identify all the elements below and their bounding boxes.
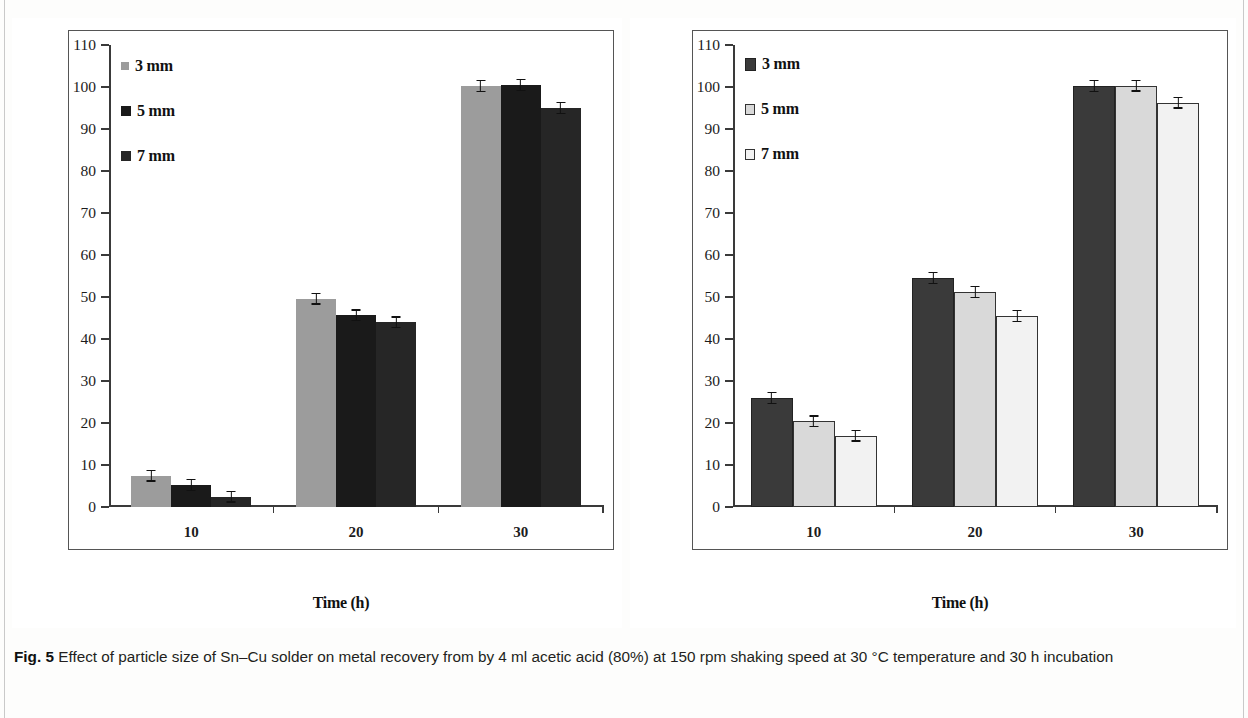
- y-tick: 30: [101, 380, 109, 381]
- bar: [461, 86, 501, 507]
- y-tick-label: 60: [705, 246, 721, 264]
- y-tick-label: 100: [73, 78, 96, 96]
- y-tick: 70: [101, 212, 109, 213]
- error-bar: [971, 286, 980, 298]
- legend-swatch-icon: [745, 149, 755, 160]
- x-axis-title-left: Time (h): [68, 594, 614, 612]
- error-bar: [476, 80, 485, 92]
- error-bar: [809, 415, 818, 427]
- error-bar: [516, 79, 525, 91]
- figure-area: Metal extraction (%) 3 mm5 mm7 mm 010203…: [10, 8, 1238, 636]
- y-tick-label: 10: [81, 456, 97, 474]
- y-tick-label: 10: [705, 456, 721, 474]
- y-axis-line-left: [109, 45, 111, 507]
- bar: [912, 278, 954, 507]
- y-tick: 10: [725, 464, 733, 465]
- legend-label: 5 mm: [761, 100, 799, 118]
- plot-frame-right: 3 mm5 mm7 mm 010203040506070809010011010…: [692, 30, 1228, 550]
- legend-swatch-icon: [745, 58, 756, 71]
- bar: [541, 108, 581, 507]
- error-bar: [1132, 80, 1141, 92]
- legend-swatch-icon: [121, 106, 131, 116]
- y-tick-label: 110: [697, 36, 720, 54]
- y-tick-label: 20: [705, 414, 721, 432]
- bar: [1157, 103, 1199, 507]
- legend-left: 3 mm5 mm7 mm: [121, 57, 175, 192]
- error-bar: [556, 102, 565, 114]
- y-tick-label: 30: [705, 372, 721, 390]
- y-tick-label: 40: [705, 330, 721, 348]
- y-tick-label: 100: [697, 78, 720, 96]
- legend-item: 3 mm: [121, 57, 175, 75]
- error-bar: [1013, 310, 1022, 322]
- x-tick: [273, 505, 274, 513]
- y-tick-label: 80: [81, 162, 97, 180]
- error-bar: [392, 316, 401, 328]
- x-tick: [1216, 505, 1217, 513]
- x-tick: [602, 505, 603, 513]
- bar: [296, 299, 336, 507]
- error-bar: [929, 272, 938, 284]
- y-tick-label: 70: [81, 204, 97, 222]
- y-tick: 100: [725, 86, 733, 87]
- x-tick: [1055, 505, 1056, 513]
- y-tick-label: 70: [705, 204, 721, 222]
- bar: [1115, 86, 1157, 507]
- figure-caption: Fig. 5 Effect of particle size of Sn–Cu …: [14, 645, 1234, 670]
- legend-right: 3 mm5 mm7 mm: [745, 55, 800, 190]
- bar: [211, 497, 251, 508]
- y-tick: 50: [725, 296, 733, 297]
- y-axis-line-right: [733, 45, 735, 507]
- bar: [793, 421, 835, 507]
- legend-item: 5 mm: [745, 100, 800, 118]
- y-tick-label: 0: [712, 498, 720, 516]
- y-tick: 40: [101, 338, 109, 339]
- y-tick-label: 40: [81, 330, 97, 348]
- x-tick-label: 10: [184, 524, 199, 541]
- x-tick-label: 20: [349, 524, 364, 541]
- bar: [954, 292, 996, 507]
- error-bar: [227, 491, 236, 503]
- y-tick: 20: [725, 422, 733, 423]
- error-bar: [147, 470, 156, 482]
- y-tick: 110: [725, 44, 733, 45]
- y-tick-label: 20: [81, 414, 97, 432]
- bar: [171, 485, 211, 507]
- y-tick-label: 80: [705, 162, 721, 180]
- bar: [131, 476, 171, 508]
- legend-label: 3 mm: [135, 57, 173, 75]
- bar: [835, 436, 877, 507]
- legend-label: 7 mm: [137, 147, 175, 165]
- y-tick: 0: [725, 506, 733, 507]
- error-bar: [187, 479, 196, 491]
- y-tick: 20: [101, 422, 109, 423]
- error-bar: [767, 392, 776, 404]
- legend-item: 5 mm: [121, 102, 175, 120]
- y-tick: 50: [101, 296, 109, 297]
- plot-area-left: 3 mm5 mm7 mm 010203040506070809010011010…: [69, 31, 613, 549]
- y-tick-label: 30: [81, 372, 97, 390]
- x-tick-label: 30: [1129, 524, 1144, 541]
- y-tick: 10: [101, 464, 109, 465]
- y-tick-label: 0: [88, 498, 96, 516]
- y-tick-label: 50: [705, 288, 721, 306]
- error-bar: [851, 430, 860, 442]
- legend-label: 7 mm: [761, 145, 799, 163]
- bar: [1073, 86, 1115, 507]
- figure-caption-text: Effect of particle size of Sn–Cu solder …: [58, 648, 1113, 665]
- x-tick-label: 10: [806, 524, 821, 541]
- y-tick-label: 90: [81, 120, 97, 138]
- x-tick-label: 20: [968, 524, 983, 541]
- y-tick: 90: [725, 128, 733, 129]
- y-tick: 90: [101, 128, 109, 129]
- bar: [336, 315, 376, 507]
- figure-page: Metal extraction (%) 3 mm5 mm7 mm 010203…: [0, 0, 1248, 718]
- bar: [376, 322, 416, 507]
- y-tick: 110: [101, 44, 109, 45]
- y-tick: 40: [725, 338, 733, 339]
- legend-item: 7 mm: [121, 147, 175, 165]
- legend-swatch-icon: [745, 104, 755, 115]
- x-axis-title-right: Time (h): [692, 594, 1228, 612]
- bar: [996, 316, 1038, 507]
- error-bar: [1174, 97, 1183, 109]
